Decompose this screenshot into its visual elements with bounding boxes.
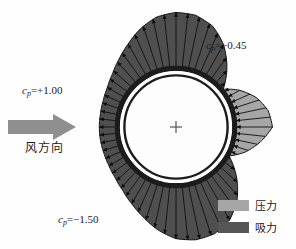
- cp-label-shoulder: cp=−1.50: [58, 213, 99, 227]
- wind-pressure-diagram: cp=+1.00 cp=−0.45 cp=−1.50 风方向 压力 吸力: [0, 0, 296, 249]
- legend-swatch-suction: [218, 222, 249, 233]
- wind-direction-arrow-icon: [8, 114, 76, 140]
- legend-item-pressure: 压力: [218, 197, 277, 213]
- cp-value-shoulder: =−1.50: [67, 213, 99, 225]
- legend: 压力 吸力: [218, 197, 277, 235]
- legend-label-pressure: 压力: [255, 197, 277, 213]
- legend-item-suction: 吸力: [218, 219, 277, 235]
- wind-direction-label: 风方向: [25, 138, 64, 155]
- cp-value-windward: =+1.00: [31, 84, 63, 96]
- legend-label-suction: 吸力: [255, 219, 277, 235]
- cp-label-leeward: cp=−0.45: [206, 39, 247, 53]
- cp-label-windward: cp=+1.00: [22, 84, 63, 98]
- legend-swatch-pressure: [218, 200, 249, 211]
- cp-value-leeward: =−0.45: [215, 39, 247, 51]
